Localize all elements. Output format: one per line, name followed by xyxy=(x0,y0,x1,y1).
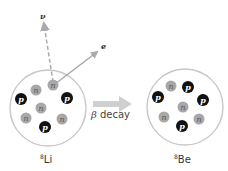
svg-text:p: p xyxy=(18,94,24,104)
parent-element: Li xyxy=(44,154,52,165)
svg-text:n: n xyxy=(50,81,55,90)
electron-label: e xyxy=(101,41,106,51)
parent-nucleus xyxy=(10,70,86,146)
svg-text:n: n xyxy=(59,115,64,124)
daughter-element: Be xyxy=(178,154,191,165)
beta-decay-diagram: n n n n n n n n n p p p p p p p ν e xyxy=(0,0,228,171)
svg-text:n: n xyxy=(23,114,28,123)
svg-text:n: n xyxy=(161,113,166,122)
svg-text:n: n xyxy=(33,86,38,95)
svg-text:p: p xyxy=(64,93,70,103)
svg-text:n: n xyxy=(168,82,173,91)
svg-text:p: p xyxy=(155,92,161,102)
svg-text:n: n xyxy=(180,103,185,112)
electron-arrow xyxy=(55,52,97,84)
svg-text:p: p xyxy=(185,82,191,92)
neutrino-label: ν xyxy=(40,11,46,21)
svg-text:n: n xyxy=(196,115,201,124)
svg-text:p: p xyxy=(179,121,185,131)
parent-label: 8Li xyxy=(40,153,52,165)
decay-text: decay xyxy=(97,109,130,120)
daughter-label: 8Be xyxy=(174,153,191,165)
svg-text:p: p xyxy=(42,122,48,132)
decay-label: β decay xyxy=(91,109,130,120)
svg-text:n: n xyxy=(38,104,43,113)
svg-text:p: p xyxy=(200,95,206,105)
